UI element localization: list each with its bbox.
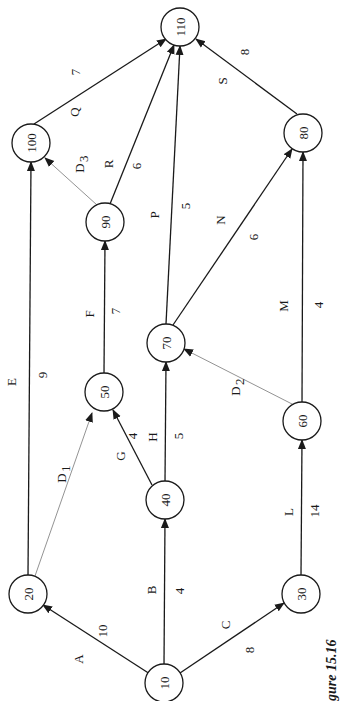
- node-60-label: 60: [295, 415, 310, 428]
- nodes: 10 20 30 40 50 60 70 80: [9, 8, 322, 701]
- label-H: H: [145, 432, 160, 441]
- label-D3-letter: D: [72, 163, 87, 172]
- edge-A: [43, 605, 150, 674]
- label-D2: D 2: [228, 379, 247, 396]
- label-Q-duration: 7: [68, 68, 83, 75]
- label-P-duration: 5: [178, 203, 193, 210]
- label-F-duration: 7: [108, 307, 123, 314]
- edge-C: [180, 603, 284, 673]
- node-70-label: 70: [159, 337, 174, 350]
- label-F: F: [82, 310, 97, 317]
- edge-Q: [34, 39, 166, 124]
- edge-G: [113, 410, 152, 485]
- edge-D1: [35, 413, 92, 576]
- node-100-label: 100: [24, 133, 39, 153]
- edge-B: [164, 519, 165, 664]
- label-D1-letter: D: [54, 473, 69, 482]
- label-D1: D 1: [54, 466, 73, 483]
- label-G-duration: 4: [125, 432, 140, 439]
- label-H-duration: 5: [171, 433, 186, 440]
- label-D1-sub: 1: [58, 466, 73, 473]
- label-C: C: [218, 621, 233, 630]
- label-E: E: [4, 378, 19, 386]
- node-40-label: 40: [158, 494, 173, 507]
- edge-D3: [45, 158, 97, 205]
- edge-L: [301, 440, 302, 575]
- label-R: R: [101, 159, 116, 168]
- edge-E: [28, 162, 31, 575]
- node-30-label: 30: [294, 588, 309, 601]
- node-80-label: 80: [296, 127, 311, 140]
- node-30: 30: [282, 575, 320, 613]
- edge-M: [302, 152, 303, 402]
- label-B: B: [144, 585, 159, 594]
- label-A-duration: 10: [95, 625, 110, 638]
- node-40: 40: [146, 481, 184, 519]
- label-D3: D 3: [72, 156, 91, 173]
- network-diagram: A 10 B 4 C 8 D 1 E 9 F 7 G 4 H 5 L 14 D …: [0, 0, 342, 701]
- label-Q: Q: [67, 107, 82, 117]
- label-B-duration: 4: [172, 587, 187, 594]
- node-110: 110: [161, 8, 199, 46]
- node-90: 90: [86, 203, 124, 241]
- node-80: 80: [284, 114, 322, 152]
- node-50: 50: [85, 373, 123, 411]
- node-20: 20: [9, 575, 47, 613]
- label-L: L: [281, 508, 296, 516]
- label-E-duration: 9: [35, 372, 50, 379]
- figure-caption: gure 15.16: [324, 640, 339, 701]
- label-S-duration: 8: [237, 49, 252, 56]
- edge-N: [173, 149, 292, 325]
- node-50-label: 50: [97, 386, 112, 399]
- label-D2-letter: D: [228, 386, 243, 395]
- node-60: 60: [283, 402, 321, 440]
- label-R-duration: 6: [129, 162, 144, 169]
- edge-H: [165, 362, 166, 481]
- node-90-label: 90: [98, 216, 113, 229]
- node-20-label: 20: [21, 588, 36, 601]
- label-L-duration: 14: [307, 504, 322, 518]
- edge-F: [104, 241, 105, 373]
- label-N-duration: 6: [246, 233, 261, 240]
- label-P: P: [147, 211, 162, 218]
- label-A: A: [71, 654, 86, 664]
- node-70: 70: [147, 324, 185, 362]
- label-M-duration: 4: [311, 301, 326, 308]
- label-D2-sub: 2: [232, 379, 247, 386]
- label-M: M: [276, 300, 291, 312]
- label-D3-sub: 3: [76, 156, 91, 163]
- label-C-duration: 8: [242, 647, 257, 654]
- label-N: N: [213, 215, 228, 225]
- edge-P: [166, 46, 180, 324]
- node-10-label: 10: [157, 677, 172, 690]
- node-100: 100: [12, 124, 50, 162]
- node-110-label: 110: [173, 17, 188, 36]
- label-G: G: [113, 451, 128, 460]
- label-S: S: [215, 77, 230, 84]
- node-10: 10: [145, 664, 183, 701]
